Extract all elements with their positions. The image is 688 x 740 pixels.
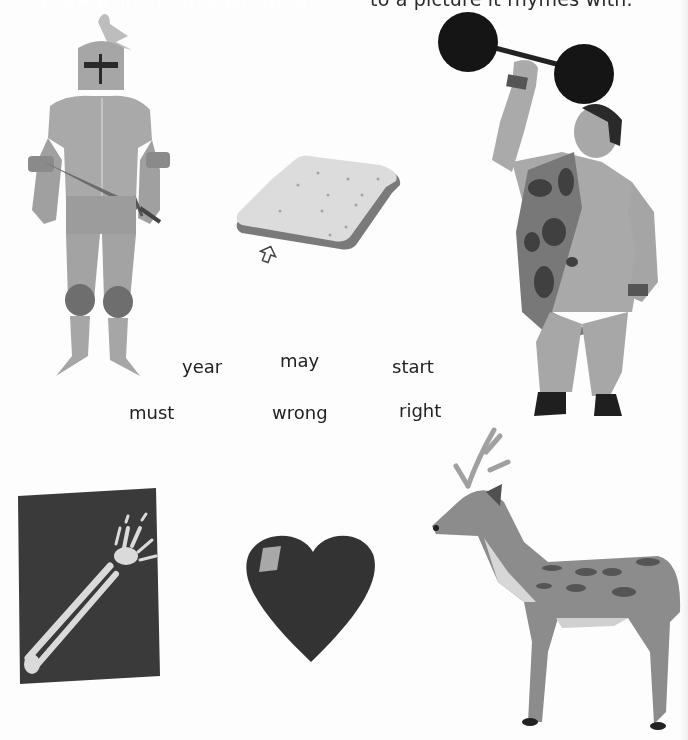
mouse-pointer-svg (258, 244, 280, 266)
bread-illustration (232, 155, 408, 255)
knight-illustration (10, 10, 180, 385)
knight-left-knee (65, 284, 95, 316)
strongman-right-boot (594, 394, 622, 416)
instruction-text-left: Draw a line from each word (40, 0, 308, 10)
word-year[interactable]: year (182, 358, 222, 376)
xray-illustration (12, 488, 162, 688)
strongman-right-leg (582, 312, 628, 396)
xray-elbow (24, 654, 40, 674)
instruction-text-right: to a picture it rhymes with. (370, 0, 633, 10)
knight-left-boot (56, 316, 90, 376)
word-right[interactable]: right (399, 402, 441, 420)
picture-heart[interactable] (243, 530, 383, 665)
word-may[interactable]: may (280, 352, 319, 370)
strongman-left-boot (534, 392, 566, 416)
xray-wrist (114, 547, 138, 565)
barbell-left-weight (438, 12, 498, 72)
mouse-pointer-icon (258, 244, 280, 270)
deer-nose (433, 525, 439, 531)
picture-deer[interactable] (428, 422, 688, 732)
page-edge-shadow (680, 0, 688, 740)
deer-body (432, 490, 680, 724)
knight-visor-cross (99, 54, 102, 84)
knight-right-elbow (146, 152, 170, 168)
strongman-wristband-bottom (628, 284, 648, 296)
knight-hips (66, 196, 136, 234)
word-start[interactable]: start (392, 358, 434, 376)
deer-illustration (428, 422, 688, 732)
picture-xray[interactable] (12, 488, 162, 688)
word-wrong[interactable]: wrong (272, 404, 328, 422)
heart-illustration (243, 530, 383, 665)
knight-right-boot (108, 318, 140, 376)
knight-left-arm (32, 138, 62, 224)
word-must[interactable]: must (129, 404, 174, 422)
deer-antlers (456, 430, 508, 486)
deer-front-hoof (522, 718, 538, 726)
picture-bread[interactable] (232, 155, 408, 255)
picture-knight[interactable] (10, 10, 180, 385)
knight-right-knee (103, 286, 133, 318)
barbell-right-weight (554, 44, 614, 104)
deer-belly (556, 618, 628, 628)
deer-back-hoof (650, 722, 666, 730)
knight-torso (48, 96, 152, 200)
strongman-illustration (432, 12, 672, 422)
knight-left-elbow (28, 156, 54, 172)
picture-strongman[interactable] (432, 12, 672, 422)
